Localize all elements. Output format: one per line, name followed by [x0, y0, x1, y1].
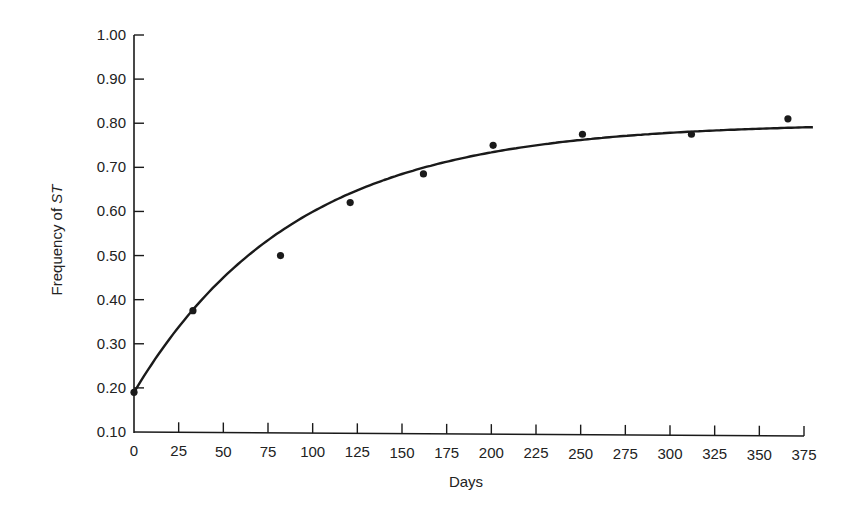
x-tick-label: 225: [523, 444, 548, 461]
y-tick-label: 0.70: [97, 158, 126, 175]
x-tick-label: 375: [791, 446, 816, 463]
x-axis-title: Days: [449, 473, 483, 490]
y-tick-label: 0.40: [97, 291, 126, 308]
line-scatter-chart: 0.100.200.300.400.500.600.700.800.901.00…: [0, 0, 859, 522]
y-tick-label: 0.60: [97, 202, 126, 219]
data-point: [420, 170, 427, 177]
x-tick-label: 150: [389, 444, 414, 461]
y-tick-label: 0.10: [97, 423, 126, 440]
data-point: [784, 115, 791, 122]
y-tick-label: 0.30: [97, 335, 126, 352]
x-tick-label: 300: [657, 445, 682, 462]
y-tick-label: 1.00: [97, 26, 126, 43]
x-tick-label: 350: [747, 446, 772, 463]
data-point: [688, 131, 695, 138]
x-tick-label: 0: [130, 442, 138, 459]
data-point: [277, 252, 284, 259]
x-tick-label: 125: [345, 443, 370, 460]
x-tick-label: 25: [170, 442, 187, 459]
x-tick-label: 325: [702, 445, 727, 462]
y-axis-title-italic: ST: [48, 183, 65, 204]
y-tick-label: 0.80: [97, 114, 126, 131]
data-point: [189, 307, 196, 314]
x-tick-label: 50: [215, 443, 232, 460]
y-tick-label: 0.20: [97, 379, 126, 396]
x-axis-line: [134, 432, 804, 436]
y-tick-label: 0.90: [97, 70, 126, 87]
fitted-curve-line: [134, 127, 813, 392]
x-tick-label: 175: [434, 444, 459, 461]
x-tick-label: 100: [300, 443, 325, 460]
data-point: [130, 389, 137, 396]
x-tick-label: 200: [479, 444, 504, 461]
y-axis-title-prefix: Frequency of: [48, 204, 65, 296]
data-point: [579, 131, 586, 138]
x-tick-label: 75: [260, 443, 277, 460]
x-tick-label: 275: [613, 445, 638, 462]
x-tick-label: 250: [568, 445, 593, 462]
fitted-curve: [134, 127, 813, 392]
y-axis-title: Frequency of ST: [48, 183, 65, 296]
axes: 0.100.200.300.400.500.600.700.800.901.00…: [97, 26, 817, 463]
data-point: [347, 199, 354, 206]
data-point: [490, 142, 497, 149]
y-tick-label: 0.50: [97, 247, 126, 264]
